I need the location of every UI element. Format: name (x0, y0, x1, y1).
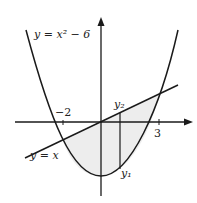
tick-label-three: 3 (154, 127, 161, 140)
line-label: y = x (30, 149, 59, 162)
point-label-y1: y₁ (121, 167, 132, 180)
shaded-region (63, 95, 159, 176)
plot-canvas (0, 0, 197, 203)
x-axis-arrow-icon (184, 119, 193, 126)
y-axis-arrow-icon (98, 17, 105, 26)
point-label-y2: y₂ (114, 98, 125, 111)
tick-label-neg-two: −2 (55, 106, 71, 119)
parabola-label: y = x² − 6 (34, 28, 90, 41)
graph-figure: y = x² − 6 y = x −2 3 y₂ y₁ (0, 0, 197, 203)
